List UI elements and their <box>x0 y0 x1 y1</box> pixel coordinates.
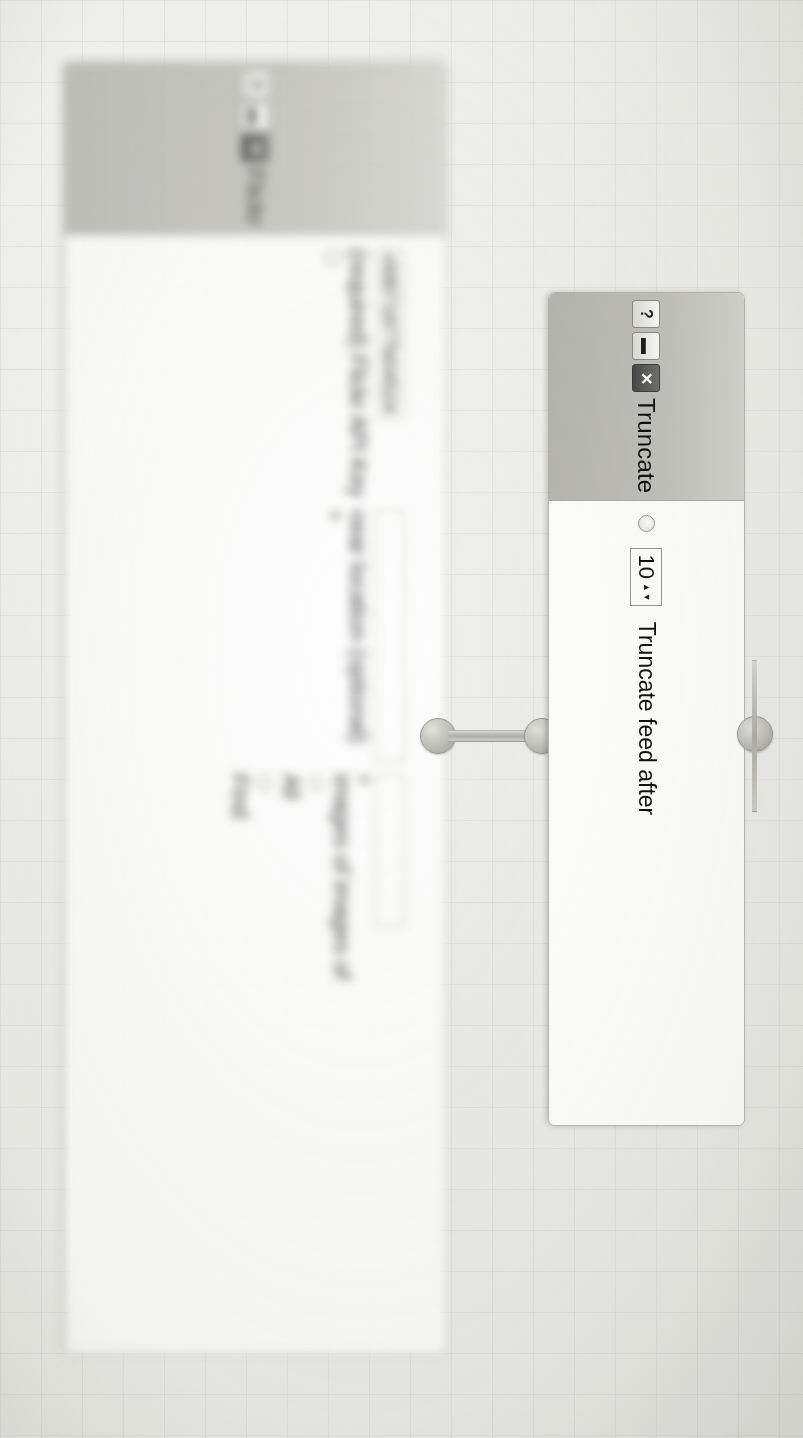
truncate-body: 10 ▲ ▼ Truncate feed after <box>549 501 744 1125</box>
location-label: near location (optional) <box>346 510 370 744</box>
flickr-row-api-key: (required) Flickr API Key cfd871877b0452… <box>324 249 405 498</box>
close-icon[interactable]: ✕ <box>241 134 269 162</box>
stepper-up-icon[interactable]: ▲ <box>642 583 651 592</box>
api-key-radio[interactable] <box>324 249 341 266</box>
pipe-truncate-output <box>752 660 757 812</box>
truncate-count-stepper[interactable]: 10 ▲ ▼ <box>631 548 663 605</box>
find-all-label: All <box>279 774 303 800</box>
stepper-arrows-icon[interactable]: ▲ ▼ <box>642 583 651 602</box>
pipes-editor-canvas[interactable]: ✕ ▬ ? Flickr (required) Flickr API Key c… <box>0 0 803 1438</box>
find-label: Find <box>228 774 252 819</box>
pipe-flickr-to-truncate <box>448 730 532 742</box>
find-query-input[interactable] <box>375 774 405 926</box>
truncate-row-label: Truncate feed after <box>634 622 658 815</box>
location-bullet-icon <box>330 510 341 521</box>
truncate-titlebar[interactable]: ✕ ▬ ? Truncate <box>549 293 744 501</box>
find-any-radio[interactable] <box>308 774 325 791</box>
flickr-body: (required) Flickr API Key cfd871877b0452… <box>65 235 445 1353</box>
truncate-window-buttons[interactable]: ✕ ▬ ? <box>633 300 661 392</box>
help-icon[interactable]: ? <box>633 300 661 328</box>
module-truncate[interactable]: ✕ ▬ ? Truncate 10 ▲ ▼ Truncate feed afte… <box>548 292 745 1126</box>
module-flickr[interactable]: ✕ ▬ ? Flickr (required) Flickr API Key c… <box>64 62 446 1354</box>
flickr-title: Flickr <box>241 168 269 227</box>
flickr-window-buttons[interactable]: ✕ ▬ ? <box>241 70 269 162</box>
flickr-row-location: near location (optional) <box>330 510 405 762</box>
find-all-radio[interactable] <box>257 774 274 791</box>
api-key-value: cfd871877b04524 <box>379 254 402 414</box>
api-key-label: (required) Flickr API Key <box>346 249 370 498</box>
stepper-down-icon[interactable]: ▼ <box>642 593 651 602</box>
minimize-icon[interactable]: ▬ <box>241 102 269 130</box>
find-bullet-icon <box>359 774 370 785</box>
help-icon[interactable]: ? <box>241 70 269 98</box>
location-input[interactable] <box>375 510 405 762</box>
find-suffix-label: images of images of <box>330 774 354 980</box>
api-key-field[interactable]: cfd871877b04524 <box>375 249 405 419</box>
close-icon[interactable]: ✕ <box>633 364 661 392</box>
truncate-title: Truncate <box>633 398 661 493</box>
minimize-icon[interactable]: ▬ <box>633 332 661 360</box>
truncate-count-value: 10 <box>636 554 658 578</box>
flickr-titlebar[interactable]: ✕ ▬ ? Flickr <box>65 63 445 235</box>
flickr-row-find: Find All images of images of <box>228 774 405 980</box>
truncate-row-radio[interactable] <box>638 515 655 532</box>
